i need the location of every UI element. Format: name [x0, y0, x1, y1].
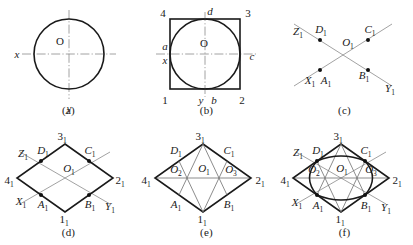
label-point-b-e: B1 — [224, 198, 235, 213]
panel-e: 31 21 11 41 D1 C1 O2 O1 — [138, 122, 275, 244]
panel-f: 31 21 11 41 Z1 D1 C1 O2 — [276, 122, 413, 244]
label-point-c-f: C1 — [360, 144, 371, 159]
label-corner-3-f: 31 — [333, 130, 343, 145]
panel-d: 31 21 11 41 Z1 D1 C1 O1 — [0, 122, 137, 244]
label-centre-1-e: O1 — [198, 162, 210, 177]
label-corner-4-d: 41 — [4, 174, 14, 189]
point-dot-d1 — [318, 38, 322, 42]
label-point-c-d: C1 — [84, 144, 95, 159]
label-corner-3-e: 31 — [195, 130, 205, 145]
label-origin-a: O — [56, 35, 64, 47]
label-corner-3-d: 31 — [57, 130, 67, 145]
label-point-a-d: A1 — [37, 198, 49, 213]
label-axis-x-c: X1 — [304, 74, 316, 89]
label-point-d-d: D1 — [36, 144, 49, 159]
label-x-axis-b: x — [162, 54, 168, 66]
label-corner-2-d: 21 — [115, 174, 125, 189]
caption-f: (f) — [276, 226, 413, 238]
caption-e: (e) — [138, 226, 275, 238]
label-point-b-f: B1 — [361, 199, 372, 214]
caption-c: (c) — [276, 104, 413, 116]
label-corner-3-b: 3 — [245, 7, 251, 19]
label-corner-4-e: 41 — [141, 174, 151, 189]
label-tangent-d-b: d — [207, 5, 213, 17]
label-point-a-e: A1 — [170, 198, 182, 213]
point-dot-d1-d — [39, 159, 43, 163]
panel-c: Z1 D1 C1 O1 X1 A1 B1 Y1 (c) — [276, 0, 413, 122]
label-point-a-f: A1 — [312, 199, 324, 214]
caption-b: (b) — [138, 104, 275, 116]
label-origin-b: O — [200, 37, 208, 49]
label-point-c-e: C1 — [223, 144, 234, 159]
label-point-c-c: C1 — [364, 23, 375, 38]
figure-root: O x y (a) 4 3 1 2 a c d b x y — [0, 0, 413, 245]
panel-a: O x y (a) — [0, 0, 137, 122]
label-corner-4-f: 41 — [280, 174, 290, 189]
point-dot-b1-d — [87, 193, 91, 197]
label-axis-y-d: Y1 — [105, 200, 115, 215]
label-axis-z-c: Z1 — [293, 25, 303, 40]
label-corner-2-e: 21 — [255, 174, 265, 189]
point-dot-x1a1 — [318, 68, 322, 72]
point-dot-a1-f — [315, 193, 319, 197]
label-axis-z-d: Z1 — [18, 147, 28, 162]
label-tangent-c-b: c — [250, 50, 255, 62]
label-tangent-a-b: a — [162, 40, 168, 52]
point-dot-c1-d — [87, 159, 91, 163]
label-centre-2-e: O2 — [170, 163, 182, 178]
caption-a: (a) — [0, 104, 137, 116]
label-point-d-c: D1 — [314, 23, 327, 38]
point-dot-a1-d — [39, 193, 43, 197]
label-axis-y-f: Y1 — [381, 201, 391, 216]
label-centre-1-f: O1 — [336, 162, 348, 177]
label-axis-y-c: Y1 — [385, 82, 395, 97]
label-point-a-c: A1 — [320, 74, 332, 89]
label-x-axis-a: x — [14, 48, 20, 60]
panel-b: 4 3 1 2 a c d b x y O (b) — [138, 0, 275, 122]
label-corner-4-b: 4 — [160, 7, 166, 19]
label-centre-3-f: O3 — [365, 163, 377, 178]
point-dot-b1-f — [363, 193, 367, 197]
label-point-d-f: D1 — [311, 144, 324, 159]
label-centre-3-e: O3 — [225, 163, 237, 178]
label-axis-x-f: X1 — [291, 196, 303, 211]
label-axis-z-f: Z1 — [293, 146, 303, 161]
point-dot-b1 — [366, 68, 370, 72]
label-origin-c: O1 — [342, 36, 354, 51]
label-corner-2-f: 21 — [392, 174, 402, 189]
label-axis-x-d: X1 — [15, 195, 27, 210]
label-point-b-d: B1 — [85, 198, 96, 213]
caption-d: (d) — [0, 226, 137, 238]
point-dot-c1 — [366, 38, 370, 42]
label-point-d-e: D1 — [169, 144, 182, 159]
label-origin-d: O1 — [63, 162, 75, 177]
